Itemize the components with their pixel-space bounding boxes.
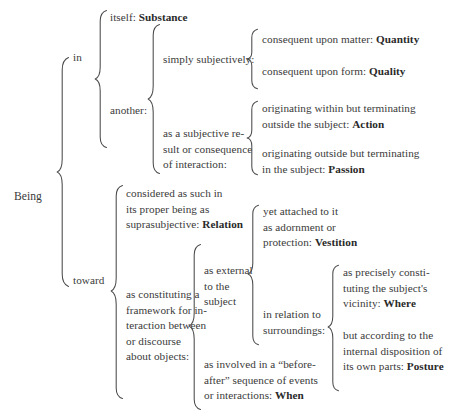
branch-label-toward: toward — [73, 273, 104, 289]
node-yet-attached: yet attached to it as adornment or prote… — [263, 204, 357, 251]
brace-diagram: Being in itself: Substance another: simp… — [0, 0, 462, 418]
brace-in — [94, 9, 108, 149]
node-itself-substance-text: itself: — [110, 11, 139, 23]
node-as-involved: as involved in a “before- after” sequenc… — [204, 357, 318, 404]
brace-root — [56, 56, 70, 288]
node-simply-subjectively: simply subjectively: — [163, 52, 254, 68]
node-consequent-form-text: consequent upon form: — [262, 65, 369, 77]
term-quantity: Quantity — [376, 33, 419, 45]
node-in-relation-surroundings: in relation to surroundings: — [263, 307, 325, 338]
brace-another — [147, 23, 161, 175]
term-passion: Passion — [328, 163, 364, 175]
term-quality: Quality — [369, 65, 405, 77]
node-but-according: but according to the internal dispositio… — [343, 328, 444, 375]
term-relation: Relation — [202, 218, 243, 230]
node-originating-within: originating within but terminating outsi… — [262, 101, 416, 132]
brace-toward — [110, 184, 124, 400]
term-posture: Posture — [407, 360, 444, 372]
node-consequent-form: consequent upon form: Quality — [262, 64, 405, 80]
term-substance: Substance — [139, 11, 188, 23]
node-consequent-matter-text: consequent upon matter: — [262, 33, 376, 45]
node-another: another: — [110, 103, 147, 119]
node-as-external: as external to the subject — [204, 263, 253, 310]
node-originating-within-text: originating within but terminating outsi… — [262, 102, 416, 130]
branch-label-in: in — [73, 50, 82, 66]
term-where: Where — [384, 297, 416, 309]
node-originating-outside: originating outside but terminating in t… — [262, 146, 419, 177]
node-constituting-framework: as constituting a framework for in- tera… — [126, 287, 207, 365]
term-vestition: Vestition — [315, 236, 357, 248]
term-when: When — [275, 389, 304, 401]
term-action: Action — [352, 118, 384, 130]
node-itself-substance: itself: Substance — [110, 10, 188, 26]
node-considered-as-such: considered as such in its proper being a… — [126, 186, 243, 233]
brace-in-relation-surroundings — [327, 264, 340, 392]
node-subjective-result: as a subjective re- sult or consequence … — [163, 126, 252, 173]
node-consequent-matter: consequent upon matter: Quantity — [262, 32, 419, 48]
root-label: Being — [14, 189, 42, 205]
node-as-precisely: as precisely consti- tuting the subject'… — [343, 265, 430, 312]
